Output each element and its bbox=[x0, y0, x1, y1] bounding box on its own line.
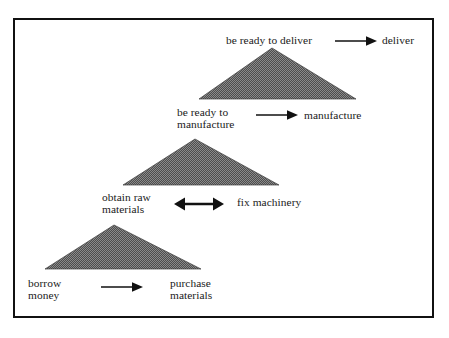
triangle-manufacture bbox=[123, 139, 279, 185]
label-deliver: deliver bbox=[382, 34, 414, 46]
triangle-deliver bbox=[199, 48, 356, 99]
triangle-raw-materials bbox=[45, 225, 201, 269]
arrow-right-purchase-icon bbox=[101, 282, 143, 292]
label-purchase-materials: purchase materials bbox=[170, 277, 212, 301]
arrow-right-deliver-icon bbox=[335, 36, 377, 46]
arrow-left-right-machinery-icon bbox=[174, 198, 224, 211]
figure-canvas: be ready to deliver deliver be ready to … bbox=[0, 0, 449, 338]
label-manufacture: manufacture bbox=[304, 109, 361, 121]
label-be-ready-to-manufacture: be ready to manufacture bbox=[177, 106, 234, 130]
label-obtain-raw-materials: obtain raw materials bbox=[102, 191, 151, 215]
diagram-graphics bbox=[0, 0, 449, 338]
arrow-right-manufacture-icon bbox=[256, 110, 298, 120]
label-be-ready-to-deliver: be ready to deliver bbox=[226, 34, 312, 46]
label-borrow-money: borrow money bbox=[28, 277, 61, 301]
label-fix-machinery: fix machinery bbox=[237, 196, 301, 208]
